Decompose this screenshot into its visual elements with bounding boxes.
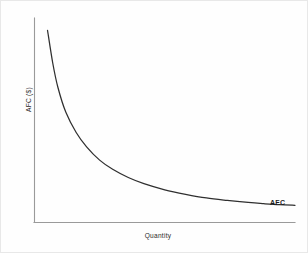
x-axis-label: Quantity bbox=[108, 232, 208, 239]
y-axis-label: AFC ($) bbox=[25, 72, 32, 128]
chart-plot-area bbox=[0, 0, 308, 253]
afc-chart-figure: AFC ($) Quantity AFC bbox=[0, 0, 308, 253]
afc-curve-label: AFC bbox=[270, 199, 285, 206]
afc-curve-line bbox=[48, 30, 295, 205]
